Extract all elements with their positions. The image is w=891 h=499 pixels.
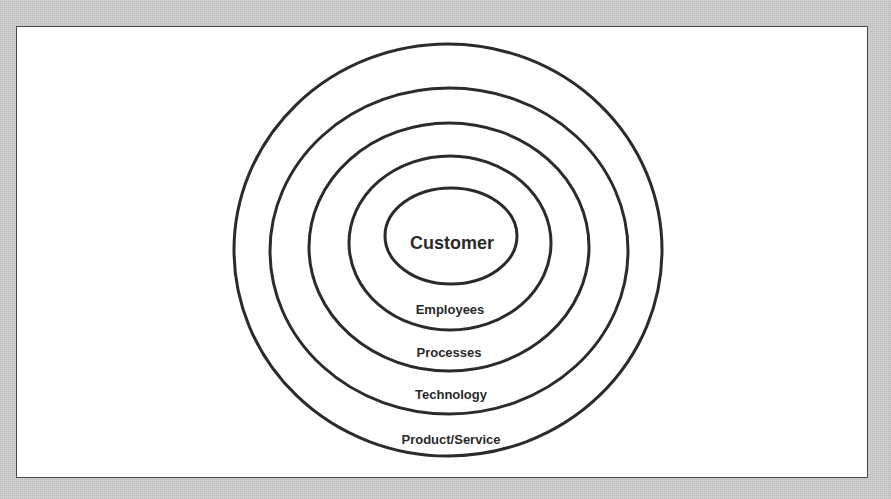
technology-label: Technology — [415, 387, 488, 402]
processes-label: Processes — [416, 345, 481, 360]
concentric-diagram: Customer Employees Processes Technology … — [0, 0, 891, 499]
employees-label: Employees — [416, 302, 485, 317]
customer-label: Customer — [410, 233, 494, 253]
product-service-label: Product/Service — [402, 432, 501, 447]
